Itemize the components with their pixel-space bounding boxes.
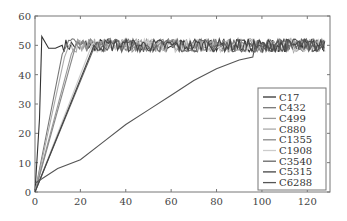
y-tick-label: 20 (18, 128, 31, 139)
y-tick-label: 60 (18, 11, 31, 22)
x-tick-label: 20 (74, 196, 87, 207)
legend-item-c880: C880 (279, 124, 306, 135)
y-tick-label: 40 (18, 70, 31, 81)
x-tick-label: 40 (119, 196, 132, 207)
y-tick-label: 10 (18, 158, 31, 169)
y-tick-label: 50 (18, 40, 31, 51)
x-tick-label: 120 (298, 196, 317, 207)
x-tick-label: 100 (252, 196, 271, 207)
line-chart: 0204060801001200102030405060C17C432C499C… (0, 0, 347, 221)
legend-item-c1355: C1355 (279, 134, 312, 145)
legend-item-c3540: C3540 (279, 156, 312, 167)
legend-item-c1908: C1908 (279, 145, 312, 156)
x-tick-label: 0 (32, 196, 38, 207)
legend-item-c6288: C6288 (279, 177, 312, 188)
x-tick-label: 80 (210, 196, 223, 207)
y-tick-label: 30 (18, 99, 31, 110)
y-tick-label: 0 (25, 187, 31, 198)
x-tick-label: 60 (165, 196, 178, 207)
legend-item-c499: C499 (279, 113, 306, 124)
legend-item-c432: C432 (279, 102, 306, 113)
legend-item-c17: C17 (279, 92, 299, 103)
legend-item-c5315: C5315 (279, 166, 312, 177)
